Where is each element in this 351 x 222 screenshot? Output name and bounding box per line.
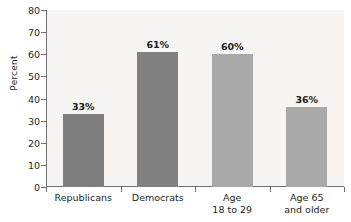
y-axis-tick-mark [41,32,46,33]
bar-value-label: 36% [277,94,337,105]
x-axis-label-line: and older [257,204,351,216]
y-axis-tick-mark [41,165,46,166]
bar-value-label: 61% [128,39,188,50]
x-axis-tick-mark [344,187,345,192]
y-axis-tick-mark [41,76,46,77]
y-axis-tick-mark [41,10,46,11]
y-axis-tick-label: 10 [14,159,40,170]
y-axis-tick-label: 60 [14,49,40,60]
bar-value-label: 33% [53,101,113,112]
y-axis-tick-label: 40 [14,93,40,104]
x-axis-label-line: Age 65 [257,192,351,204]
bar-chart: Percent 01020304050607080 33%61%60%36% R… [0,0,351,222]
y-axis-tick-label: 0 [14,182,40,193]
bar [137,52,178,187]
bar-value-label: 60% [202,41,262,52]
x-axis-category-label: Age 65and older [257,192,351,215]
bar [212,54,253,187]
y-axis-tick-mark [41,99,46,100]
bar [63,114,104,187]
y-axis-tick-label: 50 [14,71,40,82]
y-axis-tick-label: 70 [14,27,40,38]
bar [286,107,327,187]
y-axis-tick-mark [41,143,46,144]
y-axis-tick-label: 20 [14,137,40,148]
y-axis-tick-label: 80 [14,5,40,16]
y-axis-tick-mark [41,121,46,122]
y-axis-tick-label: 30 [14,115,40,126]
y-axis-tick-mark [41,54,46,55]
